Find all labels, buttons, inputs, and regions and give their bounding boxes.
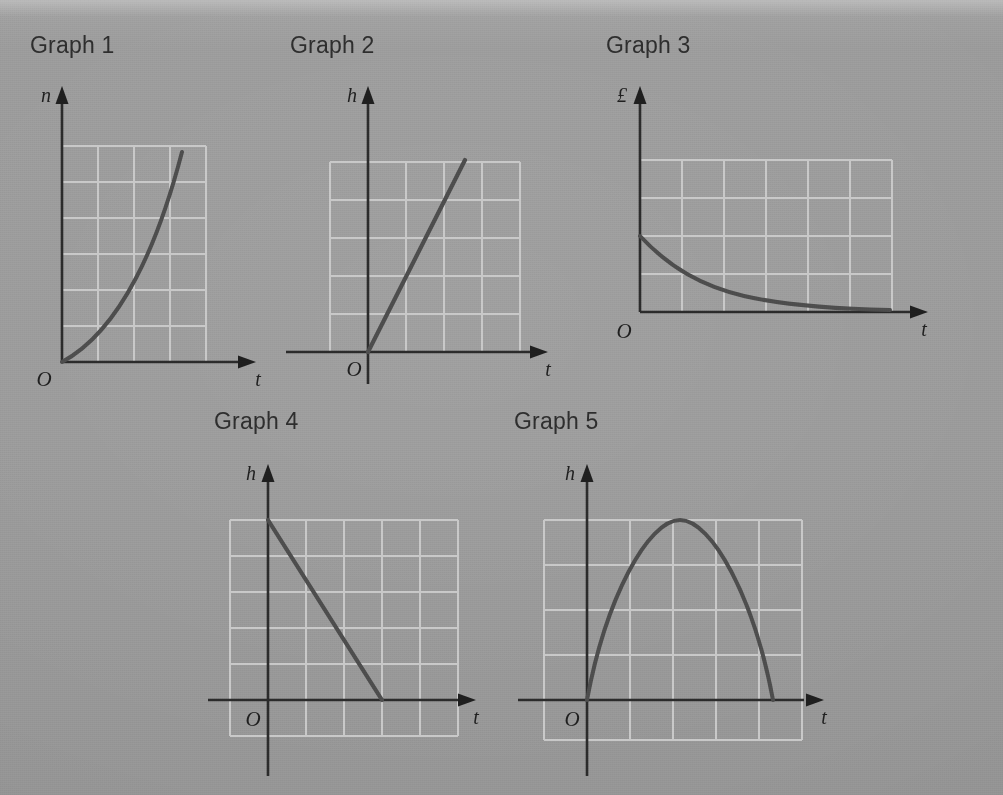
- graph-3-origin-label: O: [616, 319, 631, 343]
- graph-1-origin-label: O: [36, 367, 51, 391]
- graph-4-title: Graph 4: [214, 408, 299, 435]
- graph-5-axes: [518, 476, 804, 776]
- graph-4-x-axis-label: t: [473, 706, 479, 728]
- graph-2-axes: [286, 98, 534, 384]
- graph-1-plot: n t O: [22, 72, 282, 392]
- graph-3-curve: [640, 236, 890, 310]
- graph-3-plot: £ t O: [598, 72, 928, 362]
- graph-5-origin-label: O: [564, 707, 579, 731]
- figure-graph-3: Graph 3 £ t O: [598, 32, 928, 362]
- graph-5-y-axis-label: h: [565, 462, 575, 484]
- graph-1-gridlines: [62, 146, 206, 362]
- graph-3-gridlines: [640, 160, 892, 312]
- graph-4-y-axis-label: h: [246, 462, 256, 484]
- graph-1-curve: [62, 152, 182, 362]
- figure-graph-4: Graph 4 h t O: [208, 408, 498, 778]
- graph-5-gridlines: [544, 520, 802, 740]
- graph-4-x-axis-arrowhead: [458, 694, 476, 707]
- graph-4-y-axis-arrowhead: [262, 464, 275, 482]
- figure-graph-5: Graph 5 h t O: [508, 408, 848, 778]
- graph-1-title: Graph 1: [30, 32, 115, 59]
- graph-4-origin-label: O: [245, 707, 260, 731]
- graph-4-gridlines: [230, 520, 458, 736]
- graph-2-title: Graph 2: [290, 32, 375, 59]
- graph-3-x-axis-label: t: [921, 318, 927, 340]
- figure-graph-2: Graph 2 h t O: [282, 32, 572, 392]
- graph-5-plot: h t O: [508, 450, 848, 780]
- graph-2-line: [368, 160, 465, 352]
- graph-2-y-axis-arrowhead: [362, 86, 375, 104]
- graph-3-x-axis-arrowhead: [910, 306, 928, 319]
- graph-5-x-axis-arrowhead: [806, 694, 824, 707]
- graph-5-x-axis-label: t: [821, 706, 827, 728]
- graph-2-gridlines: [330, 162, 520, 352]
- graph-1-y-axis-arrowhead: [56, 86, 69, 104]
- graph-1-x-axis-arrowhead: [238, 356, 256, 369]
- graph-4-plot: h t O: [208, 450, 498, 780]
- graph-4-line: [268, 520, 382, 700]
- graph-1-axes: [62, 98, 244, 362]
- graph-5-title: Graph 5: [514, 408, 599, 435]
- graph-3-y-axis-label: £: [617, 84, 628, 106]
- figure-graph-1: Graph 1 n t O: [22, 32, 282, 392]
- graph-3-y-axis-arrowhead: [634, 86, 647, 104]
- graph-5-y-axis-arrowhead: [581, 464, 594, 482]
- graph-2-x-axis-label: t: [545, 358, 551, 380]
- graph-2-plot: h t O: [282, 72, 572, 392]
- graph-2-origin-label: O: [346, 357, 361, 381]
- graph-1-y-axis-label: n: [41, 84, 51, 106]
- graph-3-title: Graph 3: [606, 32, 691, 59]
- graph-1-x-axis-label: t: [255, 368, 261, 390]
- graph-2-y-axis-label: h: [347, 84, 357, 106]
- graph-2-x-axis-arrowhead: [530, 346, 548, 359]
